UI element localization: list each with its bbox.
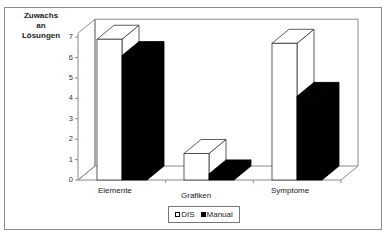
bar-dis-grafiken bbox=[184, 153, 209, 180]
legend-item-manual: Manual bbox=[201, 210, 233, 219]
y-tick-label: 2 bbox=[63, 134, 73, 143]
y-tick-label: 5 bbox=[63, 73, 73, 82]
bar-side-manual-elemente bbox=[147, 42, 164, 180]
bar-manual-elemente bbox=[122, 56, 147, 180]
bar-manual-symptome bbox=[297, 96, 322, 180]
x-label-elemente: Elemente bbox=[98, 186, 132, 195]
bar-dis-elemente bbox=[97, 39, 122, 180]
y-tick-label: 3 bbox=[63, 114, 73, 123]
y-tick-label: 4 bbox=[63, 93, 73, 102]
legend-label-dis: DIS bbox=[181, 210, 194, 219]
bar-dis-symptome bbox=[272, 43, 297, 180]
y-tick-label: 6 bbox=[63, 53, 73, 62]
legend-item-dis: DIS bbox=[175, 210, 194, 219]
y-tick-label: 0 bbox=[63, 175, 73, 184]
y-tick-label: 1 bbox=[63, 155, 73, 164]
bar-side-manual-symptome bbox=[322, 82, 339, 180]
legend-swatch-black-icon bbox=[201, 212, 206, 217]
bar-manual-grafiken bbox=[209, 174, 234, 180]
legend-label-manual: Manual bbox=[207, 210, 233, 219]
legend: DIS Manual bbox=[168, 206, 240, 223]
y-tick-label: 7 bbox=[63, 32, 73, 41]
side-wall bbox=[78, 19, 95, 180]
legend-swatch-white-icon bbox=[175, 212, 180, 217]
x-label-symptome: Symptome bbox=[271, 186, 309, 195]
x-label-grafiken: Grafiken bbox=[181, 191, 211, 200]
